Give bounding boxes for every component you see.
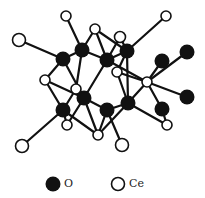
oxygen-atom-icon [120,44,135,59]
cerium-atom-icon [62,120,72,130]
cerium-atom-icon [90,24,100,34]
oxygen-atom-icon [100,103,115,118]
cerium-atom-icon [162,120,172,130]
cerium-atom-icon [61,11,71,21]
crystal-structure-diagram [0,0,205,198]
legend-symbols [46,177,125,192]
cerium-atom-icon [71,84,81,94]
oxygen-atom-icon [56,52,71,67]
oxygen-atom-icon [180,90,195,105]
oxygen-atom-icon [56,103,71,118]
cerium-atom-icon [116,139,129,152]
cerium-atom-icon [93,130,103,140]
oxygen-atom-icon [100,53,115,68]
cerium-atom-icon [115,32,126,43]
oxygen-atom-icon [155,54,170,69]
cerium-atom-icon [161,11,171,21]
cerium-atom-icon [16,140,29,153]
bond-line [127,16,166,51]
cerium-atom-icon [112,67,122,77]
legend-label-cerium: Ce [129,178,144,190]
oxygen-atom-icon [155,102,170,117]
cerium-atom-icon [40,75,50,85]
legend-oxygen-icon [46,177,61,192]
oxygen-atom-icon [121,96,136,111]
cerium-atom-icon [13,34,26,47]
legend-label-oxygen: O [64,178,73,190]
cerium-atom-icon [142,77,152,87]
bond-line [127,51,128,103]
oxygen-atom-icon [75,43,90,58]
legend-cerium-icon [112,178,125,191]
bond-line [22,110,63,146]
oxygen-atom-icon [180,45,195,60]
